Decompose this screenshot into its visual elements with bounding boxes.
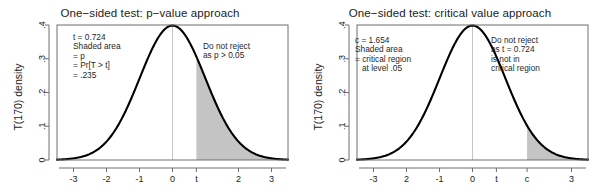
x-tick-label: 2	[236, 174, 241, 184]
x-tick-label: -1	[135, 174, 143, 184]
x-tick-label: -2	[102, 174, 110, 184]
x-tick-label: c	[525, 174, 530, 184]
x-tick-label: 0	[170, 174, 175, 184]
x-tick-label: t	[195, 174, 198, 184]
y-tick-label: .3	[337, 55, 347, 63]
x-tick-label: -1	[435, 174, 443, 184]
x-tick-label: t	[495, 174, 498, 184]
y-tick-label: .1	[337, 122, 347, 130]
y-tick-label: .3	[37, 55, 47, 63]
y-tick-label: .4	[337, 21, 347, 29]
x-tick-label: 3	[569, 174, 574, 184]
annotation-decision: Do not rejectas p > 0.05	[203, 42, 250, 61]
y-tick-label: .4	[37, 21, 47, 29]
x-tick-label: 0	[470, 174, 475, 184]
y-tick-label: .2	[37, 89, 47, 97]
annotation-line: as p > 0.05	[203, 51, 250, 60]
annotation-line: = .235	[73, 71, 121, 80]
annotation-line: at level .05	[355, 64, 411, 73]
x-tick-label: -3	[369, 174, 377, 184]
y-tick-label: 0	[337, 157, 347, 162]
plot-area: -32-10tc3.4.3.2.10	[300, 0, 600, 194]
y-tick-label: .1	[37, 122, 47, 130]
x-tick-label: -3	[69, 174, 77, 184]
annotation-statistic: t = 0.724Shaded area= p= Pr[T > t]= .235	[73, 33, 121, 80]
x-tick-label: 2	[404, 174, 409, 184]
panel-critical-value-approach: One−sided test: critical value approach …	[300, 0, 600, 194]
annotation-statistic: c = 1.654Shaded area= critical region at…	[355, 36, 411, 74]
annotation-line: critical region	[491, 64, 540, 73]
x-tick-label: 3	[269, 174, 274, 184]
annotation-decision: Do not rejectas t = 0.724is not incritic…	[491, 36, 540, 74]
panel-p-value-approach: One−sided test: p−value approach T(170) …	[0, 0, 300, 194]
plot-area: -3-2-10t23.4.3.2.10	[0, 0, 300, 194]
y-tick-label: 0	[37, 157, 47, 162]
y-tick-label: .2	[337, 89, 347, 97]
figure-container: One−sided test: p−value approach T(170) …	[0, 0, 600, 194]
